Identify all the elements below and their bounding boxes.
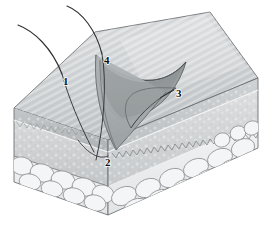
label-1: 1 <box>63 75 69 87</box>
skin-block-figure: 1 2 3 4 <box>0 0 270 249</box>
label-2: 2 <box>105 156 111 168</box>
label-3: 3 <box>176 87 182 99</box>
skin-diagram-svg: 1 2 3 4 <box>0 0 270 249</box>
label-4: 4 <box>104 54 110 66</box>
